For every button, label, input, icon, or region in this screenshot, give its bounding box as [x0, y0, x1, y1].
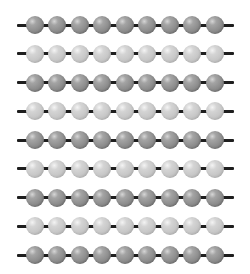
- bead-dark: [138, 189, 156, 207]
- bead-dark: [183, 16, 201, 34]
- bead-dark: [26, 74, 44, 92]
- bead-light: [161, 160, 179, 178]
- bead-dark: [26, 246, 44, 264]
- bead-dark: [93, 246, 111, 264]
- bead-row-2: [0, 44, 250, 64]
- bead-strings-figure: [0, 0, 250, 274]
- bead-light: [93, 102, 111, 120]
- bead-light: [116, 160, 134, 178]
- bead-light: [138, 217, 156, 235]
- bead-dark: [93, 74, 111, 92]
- bead-light: [26, 160, 44, 178]
- bead-dark: [206, 74, 224, 92]
- bead-light: [116, 217, 134, 235]
- bead-light: [71, 102, 89, 120]
- bead-row-7: [0, 188, 250, 208]
- bead-dark: [48, 16, 66, 34]
- bead-dark: [48, 246, 66, 264]
- bead-row-3: [0, 73, 250, 93]
- bead-light: [206, 102, 224, 120]
- bead-dark: [48, 74, 66, 92]
- bead-light: [183, 102, 201, 120]
- bead-dark: [161, 74, 179, 92]
- bead-light: [206, 45, 224, 63]
- bead-dark: [138, 16, 156, 34]
- bead-light: [93, 45, 111, 63]
- bead-dark: [93, 16, 111, 34]
- bead-dark: [161, 131, 179, 149]
- bead-row-8: [0, 216, 250, 236]
- bead-dark: [93, 189, 111, 207]
- bead-light: [71, 160, 89, 178]
- bead-light: [138, 45, 156, 63]
- bead-dark: [206, 16, 224, 34]
- bead-light: [161, 102, 179, 120]
- bead-row-1: [0, 15, 250, 35]
- bead-light: [183, 45, 201, 63]
- bead-dark: [206, 189, 224, 207]
- bead-light: [26, 102, 44, 120]
- bead-light: [93, 160, 111, 178]
- bead-dark: [138, 246, 156, 264]
- bead-light: [71, 217, 89, 235]
- bead-dark: [71, 74, 89, 92]
- bead-light: [206, 217, 224, 235]
- bead-light: [161, 45, 179, 63]
- bead-dark: [116, 74, 134, 92]
- bead-dark: [71, 16, 89, 34]
- bead-light: [206, 160, 224, 178]
- bead-dark: [183, 131, 201, 149]
- bead-light: [26, 217, 44, 235]
- bead-dark: [183, 246, 201, 264]
- bead-row-9: [0, 245, 250, 265]
- bead-dark: [138, 74, 156, 92]
- bead-row-5: [0, 130, 250, 150]
- bead-light: [183, 217, 201, 235]
- bead-light: [138, 102, 156, 120]
- bead-dark: [116, 189, 134, 207]
- bead-light: [116, 45, 134, 63]
- bead-light: [48, 217, 66, 235]
- bead-row-4: [0, 101, 250, 121]
- bead-dark: [206, 246, 224, 264]
- bead-dark: [161, 16, 179, 34]
- bead-light: [116, 102, 134, 120]
- bead-dark: [26, 16, 44, 34]
- bead-dark: [71, 131, 89, 149]
- bead-row-6: [0, 159, 250, 179]
- bead-dark: [26, 131, 44, 149]
- bead-dark: [116, 131, 134, 149]
- bead-dark: [183, 189, 201, 207]
- bead-dark: [116, 246, 134, 264]
- bead-light: [93, 217, 111, 235]
- bead-dark: [116, 16, 134, 34]
- bead-dark: [48, 189, 66, 207]
- bead-light: [26, 45, 44, 63]
- bead-dark: [161, 246, 179, 264]
- bead-light: [183, 160, 201, 178]
- bead-dark: [26, 189, 44, 207]
- bead-dark: [138, 131, 156, 149]
- bead-dark: [71, 189, 89, 207]
- bead-light: [71, 45, 89, 63]
- bead-light: [48, 45, 66, 63]
- bead-dark: [161, 189, 179, 207]
- bead-light: [138, 160, 156, 178]
- bead-dark: [206, 131, 224, 149]
- bead-light: [48, 160, 66, 178]
- bead-light: [48, 102, 66, 120]
- bead-dark: [48, 131, 66, 149]
- bead-dark: [183, 74, 201, 92]
- bead-light: [161, 217, 179, 235]
- bead-dark: [71, 246, 89, 264]
- bead-dark: [93, 131, 111, 149]
